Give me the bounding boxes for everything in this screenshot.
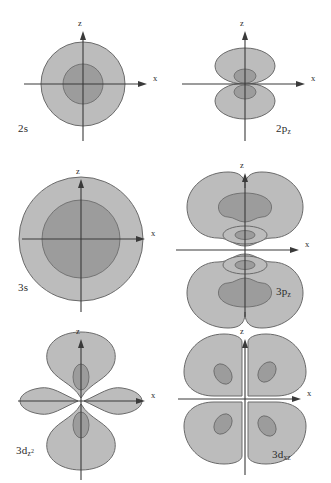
z-axis-label: z [240, 326, 244, 336]
orbital-label-subscript: z [287, 127, 291, 136]
orbital-diagram-3pz: z x [166, 160, 331, 320]
orbital-panel-3pz: z x 3pz [166, 160, 331, 320]
orbital-panel-2pz: z x 2pz [166, 0, 331, 160]
x-axis-arrow-icon [296, 81, 305, 87]
orbital-label-3dxz: 3dxz [272, 448, 291, 462]
orbital-panel-3s: z x 3s [0, 160, 166, 320]
orbital-label-superscript: 2 [31, 448, 34, 454]
orbital-label-3dz2: 3dz2 [16, 444, 34, 458]
orbital-panel-3dxz: z x 3dxz [166, 320, 331, 483]
z-axis-label: z [240, 18, 244, 28]
orbital-diagram-2s: z x [0, 0, 166, 160]
orbital-diagram-2pz: z x [166, 0, 331, 160]
x-axis-label: x [151, 228, 156, 238]
z-axis-arrow-icon [242, 339, 248, 348]
orbital-figure: z x 2s z x 2pz [0, 0, 331, 483]
x-axis-label: x [311, 73, 316, 83]
orbital-label-2pz: 2pz [276, 122, 291, 136]
z-axis-arrow-icon [242, 31, 248, 40]
x-axis-label: x [151, 390, 156, 400]
orbital-label-text: 2s [18, 122, 28, 134]
orbital-label-text: 3s [18, 281, 28, 293]
orbital-diagram-3s: z x [0, 160, 166, 320]
orbital-panel-2s: z x 2s [0, 0, 166, 160]
z-axis-label: z [240, 160, 244, 170]
orbital-diagram-3dz2: z x [0, 320, 166, 483]
orbital-lobe-upper-right [248, 334, 306, 396]
x-axis-arrow-icon [292, 396, 301, 402]
orbital-label-3pz: 3pz [276, 285, 291, 299]
orbital-label-2s: 2s [18, 122, 28, 134]
orbital-label-subscript: z2 [27, 449, 34, 458]
z-axis-label: z [76, 326, 80, 336]
orbital-lobe-upper-left [184, 334, 242, 396]
orbital-label-subscript: xz [283, 453, 290, 462]
orbital-label-3s: 3s [18, 281, 28, 293]
z-axis-label: z [78, 18, 82, 28]
orbital-lobe-lower-left [184, 402, 242, 464]
orbital-label-subscript: z [287, 290, 291, 299]
x-axis-arrow-icon [138, 81, 147, 87]
orbital-panel-3dz2: z x 3dz2 [0, 320, 166, 483]
x-axis-label: x [307, 388, 312, 398]
x-axis-label: x [305, 239, 310, 249]
x-axis-arrow-icon [290, 247, 299, 253]
z-axis-label: z [76, 166, 80, 176]
z-axis-arrow-icon [80, 31, 86, 40]
x-axis-label: x [153, 73, 158, 83]
orbital-diagram-3dxz: z x [166, 320, 331, 483]
